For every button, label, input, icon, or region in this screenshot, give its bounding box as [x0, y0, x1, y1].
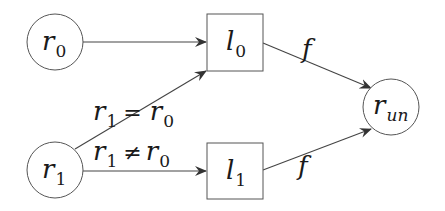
edge-l0-run: [263, 43, 371, 88]
edge-label-l1-f: f: [296, 151, 312, 181]
node-run: run: [363, 79, 419, 135]
edge-label-r1-neq-r0: r1≠r0: [93, 136, 170, 171]
node-r0: r0: [27, 14, 83, 70]
edge-label-l0-f: f: [300, 34, 316, 64]
node-l0: l0: [207, 14, 263, 71]
diagram-canvas: r0 r1 l0 l1 run r1=r0 r1≠r0 f f: [0, 0, 445, 211]
edge-label-r1-eq-r0: r1=r0: [93, 96, 174, 131]
node-r1: r1: [27, 142, 83, 198]
node-l1: l1: [207, 143, 263, 199]
edge-l1-run: [263, 129, 371, 170]
